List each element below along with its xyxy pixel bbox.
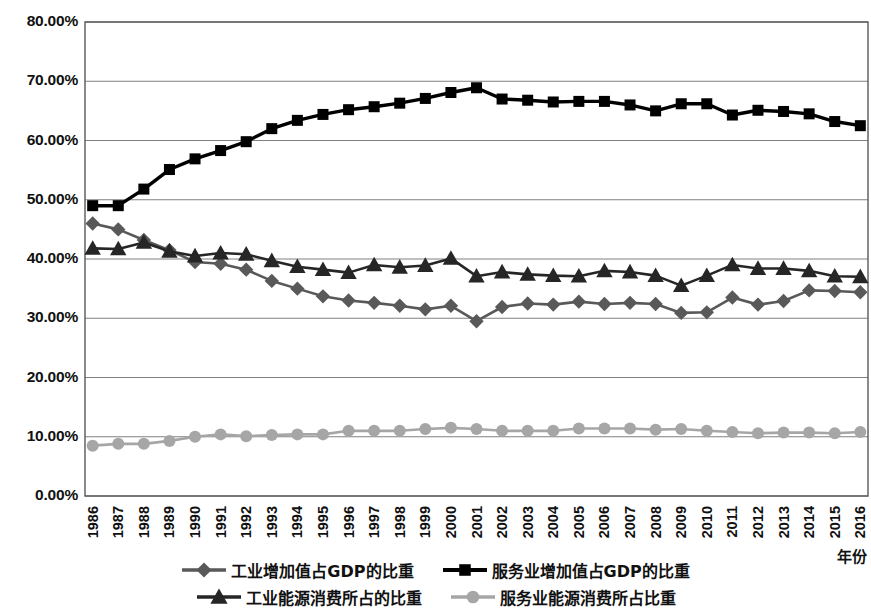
data-point-diamond xyxy=(520,296,534,310)
legend-item[interactable]: 服务业增加值占GDP的比重 xyxy=(442,558,690,582)
data-point-circle xyxy=(701,425,713,437)
data-point-circle xyxy=(471,423,483,435)
data-point-circle xyxy=(215,428,227,440)
data-point-circle xyxy=(829,427,841,439)
x-axis-tick-label: 2015 xyxy=(827,506,843,538)
chart-legend: 工业增加值占GDP的比重服务业增加值占GDP的比重工业能源消费所占的比重服务业能… xyxy=(0,556,871,612)
data-point-circle xyxy=(547,425,559,437)
data-point-square xyxy=(599,96,610,107)
data-point-square xyxy=(548,96,559,107)
data-point-diamond xyxy=(853,285,867,299)
data-point-square xyxy=(138,184,149,195)
x-axis-tick-label: 2009 xyxy=(673,506,689,538)
data-point-circle xyxy=(291,428,303,440)
data-point-square xyxy=(87,200,98,211)
x-axis-tick-label: 2004 xyxy=(545,506,561,538)
data-point-square xyxy=(804,108,815,119)
legend-square-icon xyxy=(442,561,488,579)
x-axis-tick-label: 2000 xyxy=(443,506,459,538)
data-point-circle xyxy=(598,422,610,434)
x-axis-tick-label: 1991 xyxy=(213,506,229,538)
data-point-square xyxy=(701,98,712,109)
data-point-square xyxy=(190,153,201,164)
x-axis-tick-label: 2008 xyxy=(648,506,664,538)
data-point-square xyxy=(343,104,354,115)
data-point-circle xyxy=(522,425,534,437)
data-point-square xyxy=(650,105,661,116)
data-point-circle xyxy=(726,426,738,438)
data-point-diamond xyxy=(393,299,407,313)
legend-label: 工业能源消费所占的比重 xyxy=(246,585,422,609)
data-point-diamond xyxy=(469,314,483,328)
data-point-diamond xyxy=(444,299,458,313)
x-axis-tick-label: 1990 xyxy=(187,506,203,538)
data-point-circle xyxy=(419,423,431,435)
data-point-diamond xyxy=(546,297,560,311)
legend-label: 工业增加值占GDP的比重 xyxy=(231,558,413,582)
data-point-square xyxy=(113,200,124,211)
data-point-square xyxy=(459,564,471,576)
data-point-diamond xyxy=(700,305,714,319)
series-layer xyxy=(84,82,868,451)
data-point-square xyxy=(625,99,636,110)
legend-label: 服务业增加值占GDP的比重 xyxy=(492,558,690,582)
data-point-circle xyxy=(752,427,764,439)
data-point-circle xyxy=(189,431,201,443)
data-point-square xyxy=(727,110,738,121)
data-point-square xyxy=(829,116,840,127)
data-point-square xyxy=(778,106,789,117)
data-point-square xyxy=(471,82,482,93)
data-point-diamond xyxy=(111,222,125,236)
x-axis-tick-label: 1999 xyxy=(417,506,433,538)
data-point-square xyxy=(573,96,584,107)
x-axis-tick-label: 1996 xyxy=(341,506,357,538)
x-axis-tick-label: 2016 xyxy=(852,506,868,538)
data-point-square xyxy=(420,93,431,104)
x-axis-tick-label: 1997 xyxy=(366,506,382,538)
data-point-square xyxy=(292,115,303,126)
data-point-circle xyxy=(368,425,380,437)
data-point-circle xyxy=(803,427,815,439)
data-point-diamond xyxy=(85,216,99,230)
legend-triangle-icon xyxy=(196,588,242,606)
data-point-diamond xyxy=(316,289,330,303)
x-axis-tick-label: 2011 xyxy=(724,506,740,537)
series-2 xyxy=(87,82,866,211)
data-point-circle xyxy=(445,422,457,434)
series-line xyxy=(93,88,861,206)
data-point-diamond xyxy=(648,297,662,311)
x-axis-tick-label: 2006 xyxy=(596,506,612,538)
data-point-square xyxy=(394,98,405,109)
legend-row: 工业能源消费所占的比重服务业能源消费所占比重 xyxy=(0,583,871,610)
data-point-diamond xyxy=(265,274,279,288)
data-point-diamond xyxy=(725,290,739,304)
plot-area xyxy=(0,0,871,512)
data-point-square xyxy=(445,87,456,98)
data-point-circle xyxy=(496,425,508,437)
x-axis-tick-label: 1993 xyxy=(264,506,280,538)
data-point-circle xyxy=(240,430,252,442)
data-point-diamond xyxy=(239,262,253,276)
data-point-square xyxy=(676,98,687,109)
x-axis-tick-label: 2001 xyxy=(469,506,485,538)
x-axis-tick-label: 1998 xyxy=(392,506,408,538)
data-point-square xyxy=(317,109,328,120)
data-point-square xyxy=(241,136,252,147)
x-axis-tick-label: 2010 xyxy=(699,506,715,538)
x-axis-tick-label: 1986 xyxy=(85,506,101,538)
data-point-diamond xyxy=(495,300,509,314)
legend-item[interactable]: 工业能源消费所占的比重 xyxy=(196,585,422,609)
data-point-circle xyxy=(138,438,150,450)
data-point-square xyxy=(855,120,866,131)
x-axis-tick-label: 1994 xyxy=(289,506,305,538)
legend-item[interactable]: 工业增加值占GDP的比重 xyxy=(181,558,413,582)
data-point-circle xyxy=(854,426,866,438)
x-axis-tick-label: 1989 xyxy=(161,506,177,538)
legend-circle-icon xyxy=(450,588,496,606)
x-axis-tick-label: 1995 xyxy=(315,506,331,538)
x-axis-tick-labels: 1986198719881989199019911992199319941995… xyxy=(0,500,871,560)
legend-item[interactable]: 服务业能源消费所占比重 xyxy=(450,585,676,609)
data-point-diamond xyxy=(802,283,816,297)
data-point-diamond xyxy=(828,284,842,298)
legend-row: 工业增加值占GDP的比重服务业增加值占GDP的比重 xyxy=(0,556,871,583)
